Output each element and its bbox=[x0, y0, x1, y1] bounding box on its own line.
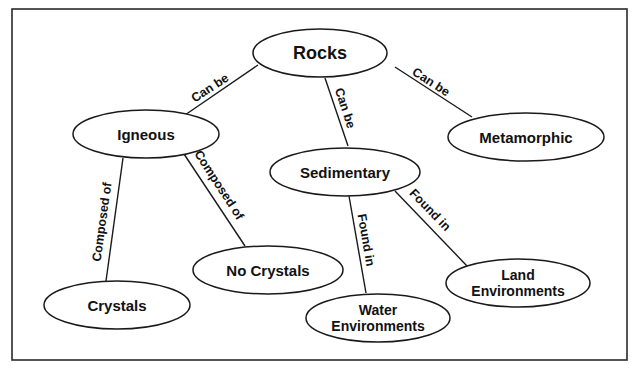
nodes-layer: RocksIgneousMetamorphicSedimentaryNo Cry… bbox=[44, 29, 604, 342]
node-sedimentary: Sedimentary bbox=[270, 148, 420, 196]
node-label: Metamorphic bbox=[479, 129, 572, 146]
edge-sedimentary-to-land-environments: Found in bbox=[395, 186, 468, 267]
node-metamorphic: Metamorphic bbox=[448, 113, 604, 161]
node-label: Environments bbox=[331, 318, 425, 334]
node-no-crystals: No Crystals bbox=[193, 246, 343, 294]
node-land-environments: LandEnvironments bbox=[446, 259, 590, 307]
edge-igneous-to-no-crystals: Composed of bbox=[184, 148, 247, 246]
edge-rocks-to-sedimentary: Can be bbox=[325, 78, 358, 146]
edge-igneous-to-crystals: Composed of bbox=[90, 158, 123, 281]
edge-sedimentary-to-water-environments: Found in bbox=[349, 196, 377, 293]
concept-map: Can beCan beCan beComposed ofComposed of… bbox=[0, 0, 641, 375]
node-label: Land bbox=[501, 267, 534, 283]
edge-rocks-to-metamorphic: Can be bbox=[395, 65, 472, 117]
edge-label: Can be bbox=[410, 65, 453, 99]
edge-label: Found in bbox=[355, 213, 378, 267]
node-label: Crystals bbox=[87, 297, 146, 314]
edge-label: Composed of bbox=[191, 148, 247, 223]
edge-rocks-to-igneous: Can be bbox=[185, 65, 258, 115]
node-water-environments: WaterEnvironments bbox=[306, 294, 450, 342]
node-label: Rocks bbox=[293, 43, 347, 63]
node-igneous: Igneous bbox=[73, 110, 219, 158]
node-label: Water bbox=[359, 302, 398, 318]
node-rocks: Rocks bbox=[253, 29, 387, 77]
node-label: Sedimentary bbox=[300, 164, 391, 181]
node-crystals: Crystals bbox=[44, 281, 190, 329]
node-label: Igneous bbox=[117, 126, 175, 143]
node-label: Environments bbox=[471, 283, 565, 299]
node-label: No Crystals bbox=[226, 262, 309, 279]
